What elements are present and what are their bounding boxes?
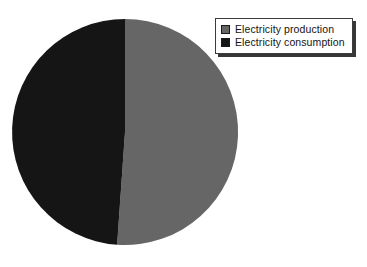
- pie-slice-electricity-consumption[interactable]: [12, 19, 125, 245]
- legend-item-electricity-consumption[interactable]: Electricity consumption: [221, 36, 345, 49]
- legend-swatch-production-icon: [221, 25, 230, 34]
- legend-label-consumption: Electricity consumption: [235, 36, 345, 49]
- legend-swatch-consumption-icon: [221, 38, 230, 47]
- pie-chart: Electricity production Electricity consu…: [0, 0, 367, 267]
- legend-item-electricity-production[interactable]: Electricity production: [221, 23, 345, 36]
- pie-slices: [12, 19, 238, 245]
- chart-legend: Electricity production Electricity consu…: [215, 18, 353, 54]
- legend-label-production: Electricity production: [235, 23, 334, 36]
